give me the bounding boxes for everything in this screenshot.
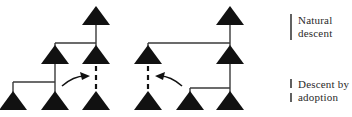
node-triangle [82, 45, 110, 64]
node-triangle [0, 91, 27, 110]
node-triangle [134, 45, 162, 64]
left-genealogy [0, 6, 110, 110]
node-triangle [134, 91, 162, 110]
legend-item-adoption: Descent by adoption [298, 78, 349, 104]
legend-natural-line-2: descent [298, 27, 332, 40]
node-triangle [216, 91, 244, 110]
node-triangle [41, 91, 69, 110]
right-genealogy [134, 6, 244, 110]
figure-canvas: Natural descent Descent by adoption [0, 0, 352, 117]
adoption-arrowhead-left [155, 72, 165, 80]
legend-natural-line-1: Natural [298, 14, 332, 27]
legend-item-natural: Natural descent [298, 14, 332, 40]
legend-adoption-line-2: adoption [298, 91, 349, 104]
node-triangle [82, 6, 110, 25]
node-triangle [216, 45, 244, 64]
legend-adoption-line-1: Descent by [298, 78, 349, 91]
node-triangle [82, 91, 110, 110]
adoption-arrowhead-right [80, 72, 90, 80]
node-triangle [176, 91, 204, 110]
node-triangle [216, 6, 244, 25]
node-triangle [41, 45, 69, 64]
